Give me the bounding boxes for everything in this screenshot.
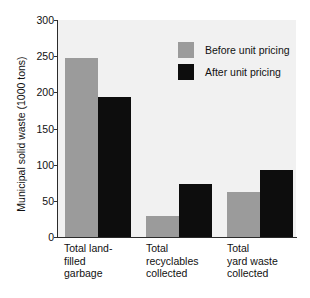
legend-item-after: After unit pricing: [178, 62, 290, 82]
x-category-label-1: Total land- filled garbage: [64, 242, 150, 280]
bar-group3-after: [260, 170, 293, 237]
x-category-label-2: Total recyclables collected: [146, 242, 232, 280]
x-category-label-3: Total yard waste collected: [227, 242, 310, 280]
legend-item-before: Before unit pricing: [178, 40, 290, 60]
y-tick-label-0: 0: [24, 232, 54, 242]
bar-group1-before: [65, 58, 98, 237]
legend: Before unit pricing After unit pricing: [178, 40, 290, 84]
x-category-label-3-line-3: collected: [227, 267, 310, 280]
bar-group3-before: [227, 192, 260, 237]
legend-swatch-after-icon: [178, 64, 194, 80]
legend-label-before: Before unit pricing: [205, 44, 290, 56]
x-category-label-1-line-3: garbage: [64, 267, 150, 280]
x-category-label-2-line-3: collected: [146, 267, 232, 280]
x-axis-line: [57, 237, 297, 238]
legend-swatch-before-icon: [178, 42, 194, 58]
x-category-label-2-line-1: Total: [146, 242, 232, 255]
y-tick-label-250: 250: [24, 51, 54, 61]
y-tick-label-300: 300: [24, 15, 54, 25]
x-category-label-1-line-1: Total land-: [64, 242, 150, 255]
bar-group1-after: [98, 97, 131, 237]
bar-group2-before: [146, 216, 179, 237]
x-axis-labels: Total land- filled garbage Total recycla…: [0, 242, 310, 298]
y-tick-label-200: 200: [24, 87, 54, 97]
bar-group2-after: [179, 184, 212, 237]
y-tick-label-150: 150: [24, 124, 54, 134]
legend-label-after: After unit pricing: [205, 66, 281, 78]
x-category-label-1-line-2: filled: [64, 255, 150, 268]
y-tick-label-100: 100: [24, 160, 54, 170]
x-category-label-3-line-1: Total: [227, 242, 310, 255]
x-category-label-3-line-2: yard waste: [227, 255, 310, 268]
bar-chart: Municipal solid waste (1000 tons) 300 25…: [0, 0, 310, 298]
y-tick-label-50: 50: [24, 196, 54, 206]
y-axis-line: [57, 20, 58, 238]
x-category-label-2-line-2: recyclables: [146, 255, 232, 268]
